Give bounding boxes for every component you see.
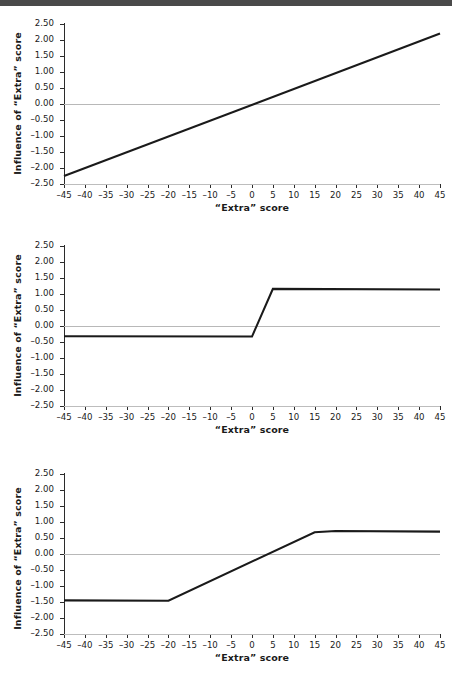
x-tick-label-0: –45: [56, 640, 71, 651]
x-tick-label-8: –5: [226, 640, 236, 651]
x-tick-label-6: –15: [182, 190, 197, 201]
x-tick-label-17: 40: [414, 412, 425, 423]
chart-panel-1: Influence of “Extra” score 2.502.001.501…: [0, 6, 452, 228]
x-tick-label-18: 45: [435, 412, 446, 423]
y-tick-label-4: 0.50: [24, 532, 54, 543]
chart-panel-2: Influence of “Extra” score 2.502.001.501…: [0, 228, 452, 450]
x-tick-label-14: 25: [351, 640, 362, 651]
x-tick-label-12: 15: [309, 640, 320, 651]
y-tick-label-3: 1.00: [24, 288, 54, 299]
y-tick-label-1: 2.00: [24, 34, 54, 45]
x-tick-label-16: 35: [393, 190, 404, 201]
x-tick-label-2: –35: [98, 412, 113, 423]
x-tick-label-4: –25: [140, 640, 155, 651]
y-tick-label-4: 0.50: [24, 82, 54, 93]
x-axis-title-2: “Extra” score: [64, 424, 440, 435]
x-tick-label-0: –45: [56, 412, 71, 423]
x-tick-label-14: 25: [351, 190, 362, 201]
x-tick-label-8: –5: [226, 412, 236, 423]
x-axis-title-1: “Extra” score: [64, 202, 440, 213]
x-tick-label-13: 20: [330, 412, 341, 423]
x-tick-label-16: 35: [393, 412, 404, 423]
y-tick-label-10: –2.50: [24, 628, 54, 639]
x-tick-label-11: 10: [288, 190, 299, 201]
x-tick-label-7: –10: [203, 190, 218, 201]
x-tick-label-15: 30: [372, 190, 383, 201]
x-tick-label-3: –30: [119, 190, 134, 201]
x-tick-18: [440, 406, 441, 410]
x-tick-label-13: 20: [330, 640, 341, 651]
x-tick-label-17: 40: [414, 640, 425, 651]
bottom-axis-line: [64, 184, 440, 185]
y-tick-label-0: 2.50: [24, 468, 54, 479]
data-series-1-linear: [64, 34, 440, 176]
x-tick-label-2: –35: [98, 640, 113, 651]
y-tick-label-8: –1.50: [24, 368, 54, 379]
y-tick-label-6: –0.50: [24, 336, 54, 347]
y-tick-label-10: –2.50: [24, 178, 54, 189]
x-tick-label-12: 15: [309, 190, 320, 201]
x-tick-label-6: –15: [182, 412, 197, 423]
chart-panel-3: Influence of “Extra” score 2.502.001.501…: [0, 450, 452, 685]
x-tick-label-1: –40: [77, 190, 92, 201]
y-tick-label-0: 2.50: [24, 18, 54, 29]
y-tick-label-5: 0.00: [24, 320, 54, 331]
y-tick-label-4: 0.50: [24, 304, 54, 315]
x-tick-label-4: –25: [140, 190, 155, 201]
x-tick-label-8: –5: [226, 190, 236, 201]
y-tick-label-2: 1.50: [24, 272, 54, 283]
plot-area-1: 2.502.001.501.000.500.00–0.50–1.00–1.50–…: [64, 24, 440, 184]
x-tick-18: [440, 634, 441, 638]
x-tick-label-18: 45: [435, 190, 446, 201]
plot-area-2: 2.502.001.501.000.500.00–0.50–1.00–1.50–…: [64, 246, 440, 406]
x-tick-label-10: 5: [270, 640, 275, 651]
y-tick-label-7: –1.00: [24, 130, 54, 141]
data-series-2-piecewise-step: [64, 289, 440, 337]
series-line-2: [64, 246, 440, 406]
x-tick-label-10: 5: [270, 412, 275, 423]
x-tick-label-5: –20: [161, 640, 176, 651]
x-tick-label-5: –20: [161, 190, 176, 201]
plot-area-3: 2.502.001.501.000.500.00–0.50–1.00–1.50–…: [64, 474, 440, 634]
x-tick-label-18: 45: [435, 640, 446, 651]
x-tick-18: [440, 184, 441, 188]
y-tick-label-3: 1.00: [24, 66, 54, 77]
y-tick-label-10: –2.50: [24, 400, 54, 411]
x-tick-label-11: 10: [288, 412, 299, 423]
y-tick-label-5: 0.00: [24, 98, 54, 109]
x-tick-label-14: 25: [351, 412, 362, 423]
x-tick-label-9: 0: [249, 640, 254, 651]
bottom-axis-line: [64, 406, 440, 407]
x-axis-title-3: “Extra” score: [64, 652, 440, 663]
x-tick-label-17: 40: [414, 190, 425, 201]
x-tick-label-1: –40: [77, 412, 92, 423]
x-tick-label-1: –40: [77, 640, 92, 651]
y-tick-label-2: 1.50: [24, 500, 54, 511]
y-tick-label-1: 2.00: [24, 256, 54, 267]
x-tick-label-3: –30: [119, 412, 134, 423]
data-series-3-piecewise-ramp: [64, 531, 440, 601]
series-line-3: [64, 474, 440, 634]
y-tick-label-6: –0.50: [24, 564, 54, 575]
y-tick-label-0: 2.50: [24, 240, 54, 251]
x-tick-label-6: –15: [182, 640, 197, 651]
y-tick-label-7: –1.00: [24, 352, 54, 363]
y-tick-label-2: 1.50: [24, 50, 54, 61]
x-tick-label-9: 0: [249, 412, 254, 423]
y-tick-label-8: –1.50: [24, 596, 54, 607]
x-tick-label-2: –35: [98, 190, 113, 201]
y-tick-label-7: –1.00: [24, 580, 54, 591]
y-tick-label-9: –2.00: [24, 162, 54, 173]
x-tick-label-15: 30: [372, 412, 383, 423]
x-tick-label-0: –45: [56, 190, 71, 201]
series-line-1: [64, 24, 440, 184]
y-tick-label-5: 0.00: [24, 548, 54, 559]
y-tick-label-6: –0.50: [24, 114, 54, 125]
y-tick-label-1: 2.00: [24, 484, 54, 495]
x-tick-label-9: 0: [249, 190, 254, 201]
x-tick-label-7: –10: [203, 412, 218, 423]
x-tick-label-3: –30: [119, 640, 134, 651]
x-tick-label-16: 35: [393, 640, 404, 651]
y-tick-label-3: 1.00: [24, 516, 54, 527]
y-tick-label-8: –1.50: [24, 146, 54, 157]
